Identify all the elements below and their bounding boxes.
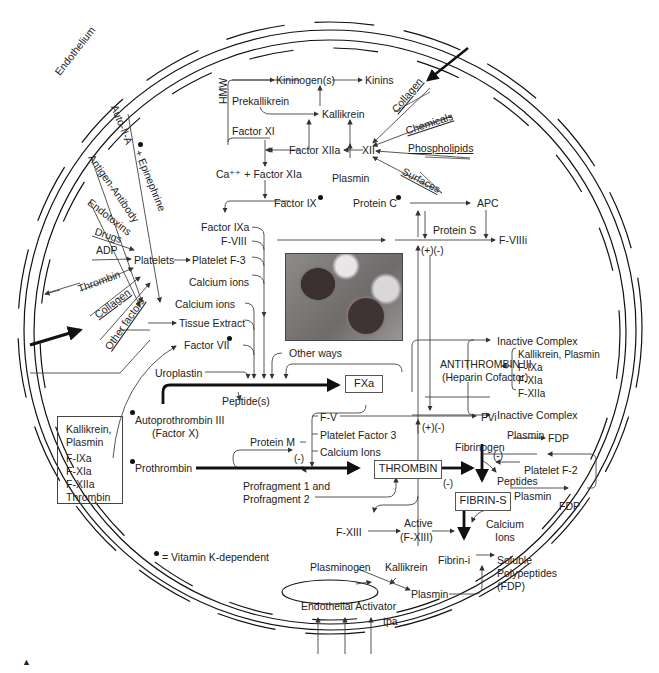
uroplastin-label: Uroplastin: [155, 367, 202, 379]
fdp-2-label: FDP: [559, 500, 580, 512]
box-item: F-XIa: [66, 465, 122, 478]
tpa-label: tpa: [383, 615, 398, 627]
vitamin-k-dot: [227, 336, 232, 341]
plasmin-2-label: Plasmin: [514, 490, 551, 502]
ions-label: Ions: [495, 531, 515, 543]
platelet-factor-3-label: Platelet Factor 3: [320, 429, 396, 441]
profragment-2-label: Profragment 2: [243, 493, 310, 505]
peptides-label: Peptide(s): [222, 395, 270, 407]
vitamin-k-legend: = Vitamin K-dependent: [162, 551, 269, 563]
box-item: Plasmin: [66, 436, 122, 449]
factor-ix-label: Factor IX: [274, 197, 317, 209]
fxa-box: FXa: [345, 375, 383, 393]
coagulation-diagram: Endothelium Auto-II-A + Epinephrine Anti…: [0, 0, 659, 673]
active-fxiii-label: (F-XIII): [400, 531, 433, 543]
ca-factor-xia-label: Ca⁺⁺ + Factor XIa: [216, 168, 302, 180]
box-item: F-XIIa: [66, 478, 122, 491]
minus-2-label: (-): [443, 478, 453, 490]
calcium-fibrin-label: Calcium: [486, 518, 524, 530]
plasmin-1-label: Plasmin: [507, 429, 544, 441]
apc-label: APC: [477, 197, 499, 209]
f-xiii-label: F-XIII: [336, 526, 362, 538]
minus-label: (-): [294, 453, 304, 465]
fibrin-s-box: FIBRIN-S: [455, 492, 511, 511]
inactive-complex-label: Inactive Complex: [497, 335, 578, 347]
platelet-f3-label: Platelet F-3: [192, 254, 246, 266]
protein-m-label: Protein M: [250, 436, 295, 448]
tissue-extract-label: Tissue Extract: [179, 317, 245, 329]
autoprothrombin-label: Autoprothrombin III: [135, 414, 224, 426]
xii-label: XII: [362, 144, 375, 156]
protein-c-label: Protein C: [353, 197, 397, 209]
active-label: Active: [404, 517, 433, 529]
at-target-kallikrein-plasmin: Kallikrein, Plasmin: [518, 349, 600, 361]
peptides-fibrin-label: Peptides: [497, 475, 538, 487]
fdp-1-label: FDP: [548, 432, 569, 444]
f-viiii-label: F-VIIIi: [499, 234, 527, 246]
at-target-f-xiia: F-XIIa: [518, 388, 545, 400]
box-item: F-IXa: [66, 452, 122, 465]
plus-minus-2-label: (+)(-): [422, 422, 445, 434]
kinins-label: Kinins: [365, 74, 394, 86]
kallikrein-label: Kallikrein: [322, 108, 365, 120]
vitamin-k-legend-dot: [154, 551, 159, 556]
other-ways-label: Other ways: [289, 347, 342, 359]
soluble-label: Soluble: [497, 554, 532, 566]
factor-vii-label: Factor VII: [184, 339, 230, 351]
f-v-label: F-V: [320, 411, 337, 423]
corner-triangle-icon: ▲: [22, 656, 31, 668]
factor-xi-label: Factor XI: [232, 125, 275, 137]
inhibitor-targets-box: Kallikrein, Plasmin F-IXa F-XIa F-XIIa T…: [57, 416, 123, 504]
box-item: Kallikrein,: [66, 423, 122, 436]
inactive-complex-2-label: Inactive Complex: [497, 409, 578, 421]
hmw-label: HMW: [217, 78, 229, 104]
protein-s-label: Protein S: [433, 224, 476, 236]
thrombin-box: THROMBIN: [374, 460, 442, 479]
vitamin-k-dot: [318, 195, 323, 200]
vitamin-k-dot: [396, 195, 401, 200]
fvi-label: FVi: [481, 411, 497, 423]
plasminogen-label: Plasminogen: [310, 561, 371, 573]
heparin-cofactor-label: (Heparin Cofactor): [442, 371, 528, 383]
factor-xiia-label: Factor XIIa: [289, 144, 340, 156]
plasmin-fibrinolysis-label: Plasmin: [411, 588, 448, 600]
at-target-f-ixa: F-IXa: [518, 362, 542, 374]
factor-x-label: (Factor X): [152, 427, 199, 439]
vitamin-k-dot: [138, 142, 143, 147]
plasmin-contact-label: Plasmin: [332, 172, 369, 184]
profragment-1-label: Profragment 1 and: [243, 480, 330, 492]
platelets-label: Platelets: [134, 254, 174, 266]
adp-label: ADP: [96, 244, 118, 256]
calcium-ions-2-label: Calcium ions: [175, 298, 235, 310]
phospholipids-label: Phospholipids: [408, 142, 473, 154]
prekallikrein-label: Prekallikrein: [232, 95, 289, 107]
fibrin-i-label: Fibrin-i: [438, 554, 470, 566]
endothelial-activator-label: Endothelial Activator: [301, 600, 396, 612]
box-item: Thrombin: [66, 491, 122, 504]
prothrombin-label: Prothrombin: [135, 462, 192, 474]
factor-ixa-label: Factor IXa: [201, 221, 249, 233]
fdp-3-label: (FDP): [497, 580, 525, 592]
calcium-ions-3-label: Calcium Ions: [320, 446, 381, 458]
polypeptides-label: Polypeptides: [497, 567, 557, 579]
blood-cells-photo: [285, 253, 403, 341]
kallikrein-fibrinolysis-label: Kallikrein: [385, 561, 428, 573]
plus-minus-label: (+)(-): [421, 245, 444, 257]
calcium-ions-label: Calcium ions: [189, 276, 249, 288]
kininogens-label: Kininogen(s): [276, 74, 335, 86]
f-viii-label: F-VIII: [221, 235, 247, 247]
minus-3-label: (-): [493, 450, 503, 462]
at-target-f-xia: F-XIa: [518, 375, 542, 387]
